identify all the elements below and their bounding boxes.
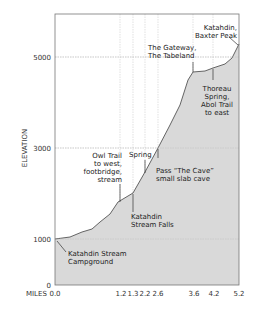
svg-text:footbridge,: footbridge, <box>84 168 122 176</box>
svg-text:Stream Falls: Stream Falls <box>131 221 174 229</box>
x-tick-6: 4.2 <box>208 290 219 298</box>
svg-text:The Tabeland: The Tabeland <box>147 52 195 60</box>
annotation-peak: Katahdin, Baxter Peak <box>195 24 238 40</box>
svg-text:stream: stream <box>97 176 122 184</box>
x-tick-4: 2.6 <box>152 290 164 298</box>
svg-text:Katahdin: Katahdin <box>131 213 162 221</box>
y-tick-0: 0 <box>47 282 51 290</box>
elevation-chart: 5000 3000 1000 0 ELEVATION MILES 0.0 1.2… <box>0 0 257 312</box>
y-axis-title: ELEVATION <box>21 129 29 167</box>
x-tick-2: 1.3 <box>127 290 138 298</box>
svg-text:Katahdin,: Katahdin, <box>204 24 237 32</box>
annotation-cave: Pass “The Cave” small slab cave <box>156 167 214 183</box>
svg-text:Baxter Peak: Baxter Peak <box>195 32 238 40</box>
svg-text:Abol Trail: Abol Trail <box>201 101 233 109</box>
x-tick-7: 5.2 <box>233 290 244 298</box>
x-tick-1: 1.2 <box>115 290 126 298</box>
svg-text:to west,: to west, <box>94 160 122 168</box>
x-tick-3: 2.2 <box>139 290 150 298</box>
annotation-thoreau: Thoreau Spring, Abol Trail to east <box>201 85 233 117</box>
annotation-owl-trail: Owl Trail to west, footbridge, stream <box>84 152 123 184</box>
y-tick-3000: 3000 <box>33 145 51 153</box>
x-tick-0: 0.0 <box>49 290 60 298</box>
svg-text:small slab cave: small slab cave <box>156 175 210 183</box>
x-tick-5: 3.6 <box>188 290 200 298</box>
svg-text:Spring,: Spring, <box>205 93 230 101</box>
svg-text:Campground: Campground <box>68 258 113 266</box>
svg-text:Spring: Spring <box>129 151 152 159</box>
svg-text:to east: to east <box>205 109 229 117</box>
y-tick-1000: 1000 <box>33 236 51 244</box>
svg-text:Pass “The Cave”: Pass “The Cave” <box>156 167 214 175</box>
y-tick-5000: 5000 <box>33 54 51 62</box>
svg-text:Katahdin Stream: Katahdin Stream <box>68 250 127 258</box>
svg-text:Owl Trail: Owl Trail <box>92 152 122 160</box>
elevation-area <box>55 44 239 285</box>
x-axis-title: MILES <box>26 290 47 298</box>
annotation-gateway: The Gateway, The Tabeland <box>147 44 196 60</box>
svg-text:The Gateway,: The Gateway, <box>147 44 196 52</box>
svg-text:Thoreau: Thoreau <box>202 85 232 93</box>
annotation-spring: Spring <box>129 151 152 159</box>
